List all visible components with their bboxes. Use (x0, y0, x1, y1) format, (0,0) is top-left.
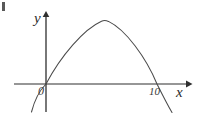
origin-tick-label: 0 (38, 85, 44, 97)
y-axis-label: y (34, 11, 41, 26)
x-axis-arrowhead (186, 81, 193, 88)
parabola-path (32, 21, 173, 113)
parabola-curve (32, 21, 173, 113)
y-axis-arrowhead (43, 11, 50, 17)
plot-canvas (0, 0, 201, 124)
parabola-figure: y x 0 10 (0, 0, 201, 124)
x-axis-label: x (176, 85, 183, 100)
x-tick-label-10: 10 (149, 86, 160, 97)
